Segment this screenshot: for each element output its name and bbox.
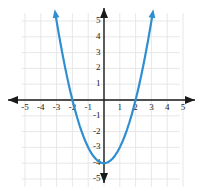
x-tick-label: 5 — [181, 102, 186, 112]
x-tick-label: -1 — [84, 102, 92, 112]
parabola-graph-figure: -5-4-3-2-112345 54321-1-2-3-4-5 — [0, 0, 203, 191]
y-tick-label: -2 — [93, 126, 101, 136]
x-tick-label: 4 — [165, 102, 170, 112]
x-tick-label: 3 — [149, 102, 154, 112]
y-tick-label: -1 — [93, 110, 101, 120]
x-tick-label: -4 — [37, 102, 45, 112]
x-tick-label: -5 — [21, 102, 29, 112]
y-tick-label: 3 — [96, 47, 101, 57]
y-tick-label: 4 — [96, 31, 101, 41]
x-tick-label: 1 — [118, 102, 123, 112]
x-tick-label: -3 — [53, 102, 61, 112]
coordinate-plane-svg: -5-4-3-2-112345 54321-1-2-3-4-5 — [0, 0, 203, 191]
y-tick-label: 2 — [96, 62, 101, 72]
y-tick-label: -5 — [93, 173, 101, 183]
y-tick-label: -3 — [93, 141, 101, 151]
y-tick-label: 1 — [96, 78, 101, 88]
y-tick-label: 5 — [96, 15, 101, 25]
